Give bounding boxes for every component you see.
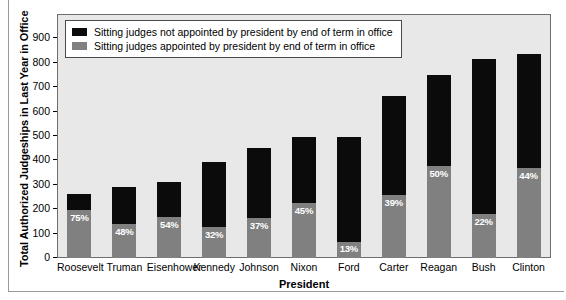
tick-mark xyxy=(53,86,57,87)
bar-truman[interactable]: 48% xyxy=(112,187,136,258)
bar-roosevelt[interactable]: 75% xyxy=(67,194,91,258)
bar-bush[interactable]: 22% xyxy=(472,59,496,258)
x-axis-label-carter: Carter xyxy=(371,261,416,273)
chart-legend: Sitting judges not appointed by presiden… xyxy=(65,20,402,58)
y-axis-tick-label: 100 xyxy=(32,227,50,239)
y-axis-tick-label: 300 xyxy=(32,178,50,190)
bar-carter[interactable]: 39% xyxy=(382,96,406,258)
tick-mark xyxy=(53,257,57,258)
x-axis-label-nixon: Nixon xyxy=(282,261,327,273)
tick-mark xyxy=(53,135,57,136)
y-axis-tick-label: 800 xyxy=(32,56,50,68)
bar-segment-not-appointed xyxy=(292,137,316,204)
legend-item-1[interactable]: Sitting judges appointed by president by… xyxy=(72,39,393,53)
tick-mark xyxy=(53,159,57,160)
bar-percent-label: 37% xyxy=(247,220,271,231)
y-axis-tick-label: 500 xyxy=(32,129,50,141)
bar-reagan[interactable]: 50% xyxy=(427,75,451,258)
x-axis-title: President xyxy=(57,278,551,290)
x-axis-label-clinton: Clinton xyxy=(506,261,551,273)
tick-mark xyxy=(53,184,57,185)
bar-segment-not-appointed xyxy=(112,187,136,224)
x-axis-label-truman: Truman xyxy=(102,261,147,273)
legend-swatch-gray xyxy=(72,42,87,50)
x-axis-label-kennedy: Kennedy xyxy=(192,261,237,273)
bar-segment-not-appointed xyxy=(472,59,496,214)
bar-nixon[interactable]: 45% xyxy=(292,137,316,258)
x-axis-label-bush: Bush xyxy=(461,261,506,273)
bar-segment-not-appointed xyxy=(67,194,91,210)
bar-percent-label: 54% xyxy=(157,219,181,230)
bar-segment-not-appointed xyxy=(157,182,181,217)
y-axis-tick-label: 600 xyxy=(32,105,50,117)
legend-label: Sitting judges not appointed by presiden… xyxy=(94,26,393,38)
bar-johnson[interactable]: 37% xyxy=(247,148,271,258)
bar-percent-label: 13% xyxy=(337,243,361,254)
bar-percent-label: 50% xyxy=(427,168,451,179)
tick-mark xyxy=(53,233,57,234)
bar-ford[interactable]: 13% xyxy=(337,137,361,258)
x-axis-label-eisenhower: Eisenhower xyxy=(147,261,192,273)
y-axis-title: Total Authorized Judgeships in Last Year… xyxy=(18,17,30,267)
bar-eisenhower[interactable]: 54% xyxy=(157,182,181,258)
chart-figure: Total Authorized Judgeships in Last Year… xyxy=(0,0,566,300)
bar-segment-not-appointed xyxy=(427,75,451,167)
y-axis-tick-label: 200 xyxy=(32,202,50,214)
y-axis-tick-label: 0 xyxy=(44,251,50,263)
y-axis-tick-label: 900 xyxy=(32,31,50,43)
tick-mark xyxy=(53,208,57,209)
bar-segment-not-appointed xyxy=(382,96,406,195)
bar-percent-label: 48% xyxy=(112,226,136,237)
bar-segment-not-appointed xyxy=(247,148,271,217)
tick-mark xyxy=(53,37,57,38)
bar-percent-label: 32% xyxy=(202,229,226,240)
x-axis-label-roosevelt: Roosevelt xyxy=(57,261,102,273)
bar-percent-label: 22% xyxy=(472,216,496,227)
legend-swatch-black xyxy=(72,28,87,36)
bar-clinton[interactable]: 44% xyxy=(517,54,541,258)
bar-percent-label: 44% xyxy=(517,170,541,181)
tick-mark xyxy=(53,111,57,112)
bar-segment-appointed xyxy=(427,166,451,258)
x-axis-label-reagan: Reagan xyxy=(416,261,461,273)
bar-segment-not-appointed xyxy=(202,162,226,227)
bar-segment-not-appointed xyxy=(517,54,541,168)
tick-mark xyxy=(53,62,57,63)
x-axis-label-ford: Ford xyxy=(326,261,371,273)
legend-label: Sitting judges appointed by president by… xyxy=(94,40,375,52)
bar-segment-appointed xyxy=(517,168,541,258)
bar-percent-label: 75% xyxy=(67,212,91,223)
y-axis-tick-label: 700 xyxy=(32,80,50,92)
bar-percent-label: 45% xyxy=(292,205,316,216)
legend-item-0[interactable]: Sitting judges not appointed by presiden… xyxy=(72,25,393,39)
bar-segment-not-appointed xyxy=(337,137,361,242)
y-axis-tick-label: 400 xyxy=(32,153,50,165)
bar-kennedy[interactable]: 32% xyxy=(202,162,226,258)
bar-percent-label: 39% xyxy=(382,197,406,208)
x-axis-label-johnson: Johnson xyxy=(237,261,282,273)
